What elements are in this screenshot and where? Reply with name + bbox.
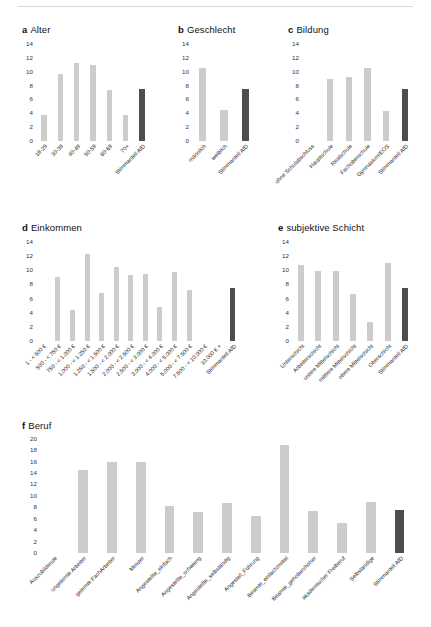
x-label-cell: Auszubildende	[40, 553, 69, 554]
panel-f-ytick: 2	[34, 538, 37, 544]
panel-c-letter: c	[288, 24, 293, 35]
panel-c-axes: ohne SchulabschlussHauptschuleRealschule…	[302, 37, 414, 141]
panel-e-ytick: 0	[286, 338, 289, 344]
x-label-cell: 1.250 - < 1.500 €	[94, 341, 109, 342]
x-label-cell: gelernte FachArbeiter	[98, 553, 127, 554]
bar-cell	[69, 37, 85, 141]
panel-c-ytick: 6	[296, 96, 299, 102]
bar-cell	[192, 37, 213, 141]
panel-c-title-text: Bildung	[296, 24, 328, 35]
bar-cell	[134, 37, 150, 141]
bar-cell	[94, 235, 109, 341]
x-axis-label: weiblich	[210, 143, 229, 162]
panel-d-ytick: 6	[30, 295, 33, 301]
panel-b-letter: b	[178, 24, 184, 35]
x-label-cell: männlich	[192, 141, 213, 142]
bar	[123, 115, 129, 141]
panel-f-bars	[40, 433, 414, 553]
x-axis-label: Meister	[128, 555, 146, 573]
x-label-cell: ungelernte Arbeiter	[69, 553, 98, 554]
bar	[58, 74, 64, 141]
x-label-cell: Angestell_Führung	[241, 553, 270, 554]
x-label-cell: 1 - < 500 €	[36, 341, 51, 342]
panel-b-ytick: 6	[186, 96, 189, 102]
bar	[157, 307, 162, 341]
bar	[366, 502, 376, 553]
bar	[308, 511, 318, 553]
panel-a-alter: aAlter 18-2930-3940-4950-5960-6970+Stimm…	[22, 24, 150, 141]
panel-d-letter: d	[22, 222, 28, 233]
bar-cell	[65, 235, 80, 341]
x-label-cell: 30-39	[52, 141, 68, 142]
panel-e-subjektive-schicht: esubjektive Schicht UnterschichtArbeiter…	[278, 222, 414, 341]
panel-e-plot: UnterschichtArbeiterschichtuntere Mittel…	[292, 235, 414, 341]
bar-cell	[123, 235, 138, 341]
bar	[220, 110, 227, 141]
x-label-cell: obere Mittelschicht	[362, 341, 379, 342]
bar-cell	[85, 37, 101, 141]
panel-d-axes: 1 - < 500 €500 - < 750 €750 - < 1.000 €1…	[36, 235, 240, 341]
bar-cell	[270, 433, 299, 553]
x-label-cell: 7.500 - < 10.000 €	[196, 341, 211, 342]
panel-a-ytick: 12	[26, 55, 33, 61]
x-label-cell: Angestellte_selbständig	[213, 553, 242, 554]
panel-b-axes: männlichweiblichStimmanteil AfD 02468101…	[192, 37, 256, 141]
panel-a-ytick: 10	[26, 69, 33, 75]
panel-b-ytick: 8	[186, 82, 189, 88]
bar-cell	[211, 235, 226, 341]
bar-cell	[377, 37, 396, 141]
panel-b-plot: männlichweiblichStimmanteil AfD 02468101…	[192, 37, 256, 141]
panel-b-title: bGeschlecht	[178, 24, 256, 35]
panel-c-xlabels: ohne SchulabschlussHauptschuleRealschule…	[302, 141, 414, 142]
panel-f-ytick: 6	[34, 516, 37, 522]
panel-f-ytick: 12	[30, 481, 37, 487]
panel-c-plot: ohne SchulabschlussHauptschuleRealschule…	[302, 37, 414, 141]
x-label-cell: 40-49	[69, 141, 85, 142]
bar-cell	[36, 235, 51, 341]
bar	[315, 271, 321, 341]
bar	[136, 462, 146, 553]
bar-cell	[385, 433, 414, 553]
x-label-cell: ohne Schulabschluss	[302, 141, 321, 142]
x-label-cell: 2.000 - < 2.500 €	[123, 341, 138, 342]
bar-cell	[155, 433, 184, 553]
panel-c-ytick: 8	[296, 82, 299, 88]
bar-cell	[117, 37, 133, 141]
bar-cell	[80, 235, 95, 341]
x-label-cell: untere Mittelschicht	[327, 341, 344, 342]
header-rule	[18, 6, 413, 7]
panel-f-ytick: 10	[30, 493, 37, 499]
panel-f-ytick: 4	[34, 527, 37, 533]
panel-e-ytick: 12	[282, 253, 289, 259]
bar	[99, 293, 104, 341]
panel-f-ytick: 18	[30, 447, 37, 453]
bar-cell	[397, 235, 414, 341]
x-label-cell: Stimmanteil AfD	[134, 141, 150, 142]
panel-e-title-text: subjektive Schicht	[286, 222, 364, 233]
bar-cell	[321, 37, 340, 141]
bar-cell	[40, 433, 69, 553]
panel-a-ytick: 6	[30, 96, 33, 102]
x-axis-label: Auszubildende	[28, 555, 58, 585]
bar-cell	[339, 37, 358, 141]
x-label-cell: Stimmanteil AfD	[385, 553, 414, 554]
bar	[385, 263, 391, 341]
bar-stimmanteil-afd	[230, 288, 235, 341]
bar	[85, 254, 90, 341]
bar-cell	[302, 37, 321, 141]
x-label-cell: Selbständige	[356, 553, 385, 554]
panel-d-ytick: 8	[30, 281, 33, 287]
panel-d-xlabels: 1 - < 500 €500 - < 750 €750 - < 1.000 €1…	[36, 341, 240, 342]
bar	[327, 79, 333, 141]
panel-a-xlabels: 18-2930-3940-4950-5960-6970+Stimmanteil …	[36, 141, 150, 142]
x-label-cell: Meister	[126, 553, 155, 554]
panel-a-letter: a	[22, 24, 27, 35]
bar-cell	[126, 433, 155, 553]
bar-cell	[327, 235, 344, 341]
bar-cell	[213, 37, 234, 141]
x-label-cell: Hauptschule	[321, 141, 340, 142]
x-axis-label: Stimmanteil AfD	[371, 555, 404, 588]
bar	[90, 65, 96, 141]
x-label-cell: Arbeiterschicht	[309, 341, 326, 342]
panel-a-ytick: 2	[30, 124, 33, 130]
